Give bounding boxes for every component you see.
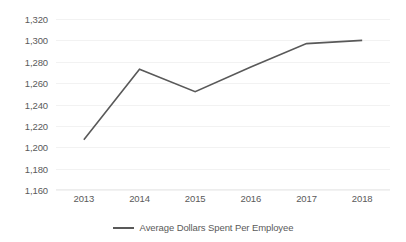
y-tick-label: 1,240 (4, 99, 48, 110)
y-tick-label: 1,180 (4, 163, 48, 174)
legend-item-label: Average Dollars Spent Per Employee (140, 222, 294, 233)
series-line-average-dollars-spent-per-employee (84, 40, 362, 139)
y-tick-label: 1,320 (4, 14, 48, 25)
y-tick-label: 1,300 (4, 35, 48, 46)
line-chart: 1,3201,3001,2801,2601,2401,2201,2001,180… (0, 0, 406, 242)
y-tick-label: 1,160 (4, 185, 48, 196)
y-tick-label: 1,280 (4, 56, 48, 67)
x-tick-label: 2018 (338, 193, 386, 204)
x-tick-label: 2017 (283, 193, 331, 204)
y-tick-label: 1,260 (4, 78, 48, 89)
chart-legend: Average Dollars Spent Per Employee (0, 222, 406, 233)
legend-line-swatch-icon (113, 227, 134, 229)
y-tick-label: 1,200 (4, 142, 48, 153)
x-tick-label: 2013 (60, 193, 108, 204)
x-tick-label: 2014 (116, 193, 164, 204)
x-axis-labels: 201320142015201620172018 (56, 193, 390, 209)
series-layer (56, 19, 390, 190)
plot-area (56, 19, 390, 190)
x-tick-label: 2015 (171, 193, 219, 204)
gridline (56, 190, 390, 191)
y-tick-label: 1,220 (4, 120, 48, 131)
x-tick-label: 2016 (227, 193, 275, 204)
